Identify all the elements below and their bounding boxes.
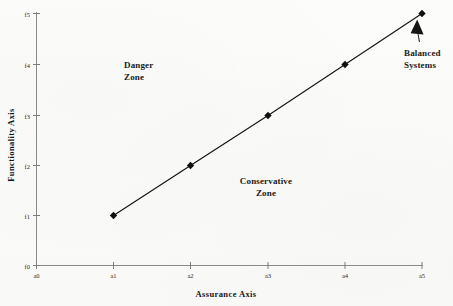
y-tick-label-f3: f3 [25, 112, 30, 119]
x-tick-label-a5: a5 [419, 272, 425, 279]
plot-area [0, 0, 453, 306]
y-tick-label-f2: f2 [25, 162, 30, 169]
y-tick-label-f1: f1 [25, 212, 30, 219]
balanced-systems-line2: Systems [404, 60, 441, 72]
x-tick-label-a4: a4 [342, 272, 348, 279]
danger-zone-label: Danger Zone [124, 60, 153, 83]
y-tick-label-f5: f5 [25, 10, 30, 17]
chart-container: f0 f1 f2 f3 f4 f5 a0 a1 a2 a3 a4 a5 Assu… [0, 0, 453, 306]
danger-zone-line1: Danger [124, 60, 153, 72]
y-tick-label-f4: f4 [25, 61, 30, 68]
x-tick-label-a1: a1 [110, 272, 116, 279]
data-point-a2-f2 [187, 162, 194, 169]
x-tick-label-a0: a0 [33, 272, 39, 279]
data-point-a1-f1 [110, 212, 117, 219]
conservative-zone-line2: Zone [240, 188, 292, 200]
y-axis-title: Functionality Axis [6, 108, 16, 182]
x-tick-label-a3: a3 [265, 272, 271, 279]
balanced-systems-label: Balanced Systems [404, 48, 441, 71]
x-tick-label-a2: a2 [187, 272, 193, 279]
data-point-a4-f4 [341, 61, 348, 68]
conservative-zone-label: Conservative Zone [240, 176, 292, 199]
conservative-zone-line1: Conservative [240, 176, 292, 188]
y-tick-label-f0: f0 [25, 262, 30, 269]
data-point-a5-f5 [418, 10, 425, 17]
balanced-systems-line1: Balanced [404, 48, 441, 60]
balanced-systems-arrow-icon [411, 20, 424, 43]
data-point-a3-f3 [264, 112, 271, 119]
danger-zone-line2: Zone [124, 72, 153, 84]
x-axis-title: Assurance Axis [195, 289, 256, 299]
